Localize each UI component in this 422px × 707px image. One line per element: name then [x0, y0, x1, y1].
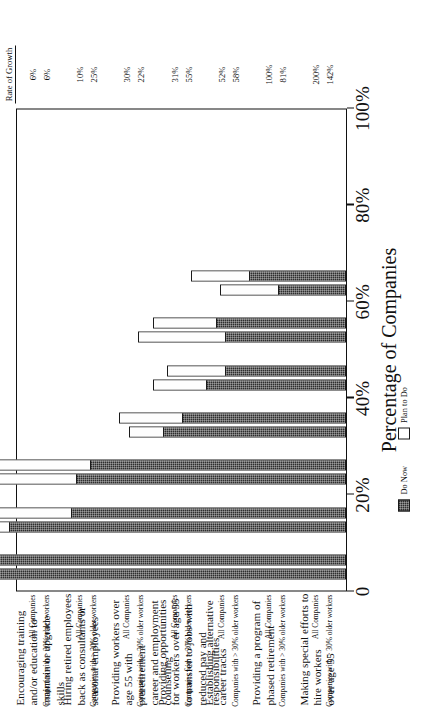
series-label: Companies with > 30% older workers	[326, 594, 333, 706]
bar-segment-do-now	[278, 285, 345, 294]
series-label: Companies with > 30% older workers	[137, 594, 144, 706]
bar-2-all-companies	[0, 473, 346, 484]
rate-of-growth-value: 6%	[28, 45, 38, 103]
x-tick-label: 40%	[352, 380, 374, 415]
legend-label-do-now: Do Now	[400, 465, 409, 494]
rate-of-growth-value: 55%	[184, 45, 194, 103]
series-label: Companies with > 30% older workers	[43, 594, 50, 706]
legend-label-plan-to-do: Plan to Do	[400, 387, 409, 423]
legend-swatch-do-now	[398, 499, 410, 511]
bar-segment-do-now	[0, 555, 345, 564]
rate-of-growth-value: 52%	[217, 45, 227, 103]
rate-of-growth-value: 25%	[89, 45, 99, 103]
chart-figure: Encouraging training and/or education to…	[0, 0, 422, 707]
x-axis-title: Percentage of Companies	[378, 108, 401, 591]
bar-segment-do-now	[9, 522, 345, 531]
chart-legend: Do Now Plan to Do	[398, 387, 410, 511]
bar-1-older-workers	[0, 507, 346, 518]
bar-3-older-workers	[119, 412, 346, 423]
bar-segment-do-now	[249, 271, 345, 280]
bar-segment-plan-to-do	[0, 522, 9, 531]
bar-segment-do-now	[76, 474, 345, 483]
rate-of-growth-value: 200%	[311, 45, 321, 103]
rate-of-growth-value: 22%	[136, 45, 146, 103]
series-label: All Companies	[76, 594, 83, 639]
series-label-column: All CompaniesCompanies with > 30% older …	[16, 591, 347, 707]
plot-area	[16, 108, 347, 591]
bar-segment-plan-to-do	[120, 413, 182, 422]
rate-of-growth-value: 58%	[231, 45, 241, 103]
bar-segment-do-now	[225, 332, 345, 341]
bars-layer	[17, 109, 346, 590]
series-label: All Companies	[312, 594, 319, 639]
bar-segment-plan-to-do	[192, 271, 249, 280]
bar-6-all-companies	[220, 284, 346, 295]
bar-segment-plan-to-do	[0, 508, 71, 517]
bar-segment-plan-to-do	[168, 366, 225, 375]
series-label: Companies with > 30% older workers	[232, 594, 239, 706]
bar-6-older-workers	[191, 270, 346, 281]
bar-segment-do-now	[71, 508, 345, 517]
x-tick-label: 20%	[352, 477, 374, 512]
rate-of-growth-column: Rate of Growth 6%6%10%25%30%22%31%55%52%…	[0, 43, 347, 103]
bar-segment-do-now	[182, 413, 345, 422]
rate-of-growth-value: 100%	[264, 45, 274, 103]
rate-of-growth-value: 81%	[278, 45, 288, 103]
bar-segment-do-now	[216, 318, 345, 327]
bar-segment-plan-to-do	[154, 318, 216, 327]
series-label: Companies with > 30% older workers	[90, 594, 97, 706]
rate-of-growth-value: 31%	[170, 45, 180, 103]
bar-segment-do-now	[225, 366, 345, 375]
rotated-figure-wrapper: Encouraging training and/or education to…	[0, 0, 422, 707]
bar-4-older-workers	[167, 365, 346, 376]
bar-segment-plan-to-do	[221, 285, 278, 294]
bar-5-all-companies	[138, 331, 346, 342]
bar-segment-plan-to-do	[130, 427, 163, 436]
legend-item-plan-to-do: Plan to Do	[398, 387, 410, 440]
series-label: All Companies	[171, 594, 178, 639]
rate-of-growth-value: 10%	[75, 45, 85, 103]
rate-of-growth-value: 6%	[42, 45, 52, 103]
legend-item-do-now: Do Now	[398, 465, 410, 511]
bar-0-all-companies	[0, 568, 346, 579]
bar-segment-plan-to-do	[0, 460, 90, 469]
bar-5-older-workers	[153, 317, 346, 328]
x-axis-tick-labels: 020%40%60%80%100%	[352, 108, 378, 591]
bar-3-all-companies	[129, 426, 346, 437]
series-label: Companies with > 30% older workers	[185, 594, 192, 706]
series-label: All Companies	[218, 594, 225, 639]
series-label: All Companies	[123, 594, 130, 639]
x-tick-label: 100%	[352, 85, 374, 130]
bar-segment-do-now	[0, 569, 345, 578]
rate-of-growth-header: Rate of Growth	[4, 45, 16, 103]
x-tick-label: 80%	[352, 187, 374, 222]
bar-0-older-workers	[0, 554, 346, 565]
bar-segment-plan-to-do	[139, 332, 225, 341]
x-tick-label: 0	[352, 586, 374, 596]
legend-swatch-plan-to-do	[398, 427, 410, 439]
series-label: All Companies	[265, 594, 272, 639]
series-label: Companies with > 30% older workers	[279, 594, 286, 706]
rate-of-growth-value: 30%	[122, 45, 132, 103]
bar-1-all-companies	[0, 521, 346, 532]
bar-segment-do-now	[206, 380, 345, 389]
bar-2-older-workers	[0, 459, 346, 470]
rate-of-growth-value: 142%	[325, 45, 335, 103]
bar-segment-do-now	[163, 427, 345, 436]
bar-segment-plan-to-do	[154, 380, 206, 389]
bar-4-all-companies	[153, 379, 346, 390]
x-tick-label: 60%	[352, 283, 374, 318]
bar-segment-plan-to-do	[0, 474, 76, 483]
bar-segment-do-now	[90, 460, 345, 469]
series-label: All Companies	[29, 594, 36, 639]
